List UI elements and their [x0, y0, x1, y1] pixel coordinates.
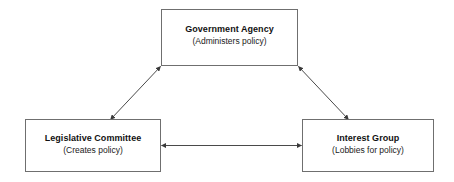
- edge-agency-interest: [299, 67, 349, 120]
- node-legislative-committee-title: Legislative Committee: [45, 133, 142, 144]
- node-government-agency-subtitle: (Administers policy): [192, 36, 266, 46]
- node-interest-group: Interest Group (Lobbies for policy): [302, 119, 434, 172]
- node-legislative-committee: Legislative Committee (Creates policy): [25, 119, 161, 172]
- node-government-agency-title: Government Agency: [185, 24, 274, 35]
- node-interest-group-subtitle: (Lobbies for policy): [332, 145, 404, 155]
- node-government-agency: Government Agency (Administers policy): [161, 9, 298, 66]
- diagram-canvas: Government Agency (Administers policy) L…: [0, 0, 454, 182]
- node-interest-group-title: Interest Group: [337, 133, 400, 144]
- edge-agency-committee: [111, 67, 161, 120]
- node-legislative-committee-subtitle: (Creates policy): [63, 145, 123, 155]
